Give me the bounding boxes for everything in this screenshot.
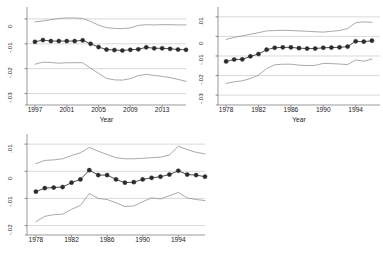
x-axis-tick-label: 1986	[92, 236, 122, 243]
data-point-marker	[256, 52, 260, 56]
y-axis-tick-label: 0	[197, 42, 204, 45]
y-axis-tick-label: -.02	[6, 224, 13, 235]
y-axis-tick-label: -.03	[197, 93, 204, 104]
y-axis-tick-label: -.03	[6, 92, 13, 103]
data-point-marker	[73, 39, 77, 43]
data-point-marker	[41, 38, 45, 42]
x-axis-tick-label: 2005	[84, 106, 114, 113]
data-point-marker	[152, 46, 156, 50]
data-point-marker	[232, 57, 236, 61]
data-point-marker	[132, 180, 136, 184]
data-point-marker	[150, 176, 154, 180]
data-point-marker	[185, 172, 189, 176]
figure-canvas: 0-.01-.02-.0319972001200520092013Year .0…	[0, 0, 383, 260]
data-point-marker	[104, 47, 108, 51]
data-point-marker	[362, 40, 366, 44]
x-axis-tick-label: 1982	[57, 236, 87, 243]
data-point-marker	[114, 177, 118, 181]
data-point-marker	[158, 175, 162, 179]
x-axis-tick-label: 1994	[341, 106, 371, 113]
chart-panel-top-left: 0-.01-.02-.0319972001200520092013Year	[0, 0, 190, 128]
y-axis-tick-label: -.01	[197, 54, 204, 65]
data-point-marker	[273, 46, 277, 50]
data-point-marker	[265, 48, 269, 52]
y-axis-tick-label: -.01	[6, 42, 13, 53]
x-axis-tick-label: 1982	[244, 106, 274, 113]
data-point-marker	[49, 39, 53, 43]
data-point-marker	[289, 45, 293, 49]
data-point-marker	[112, 48, 116, 52]
x-axis-tick-label: 1994	[163, 236, 193, 243]
data-point-marker	[248, 54, 252, 58]
estimate-line	[226, 41, 372, 62]
data-point-marker	[61, 185, 65, 189]
data-point-marker	[43, 186, 47, 190]
data-point-marker	[354, 39, 358, 43]
x-axis-title: Year	[27, 116, 186, 123]
x-axis-tick-label: 1978	[21, 236, 51, 243]
data-point-marker	[144, 45, 148, 49]
y-axis-tick-label: 0	[6, 177, 13, 180]
data-point-marker	[96, 173, 100, 177]
data-point-marker	[57, 39, 61, 43]
chart-panel-top-right: .010-.01-.02-.0319781982198619901994Year	[190, 0, 383, 128]
data-point-marker	[337, 45, 341, 49]
data-point-marker	[141, 177, 145, 181]
y-axis-tick-label: -.02	[197, 74, 204, 85]
x-axis-tick-label: 2009	[115, 106, 145, 113]
data-point-marker	[346, 44, 350, 48]
x-axis-tick-label: 1990	[308, 106, 338, 113]
y-axis-tick-label: -.01	[6, 197, 13, 208]
data-point-marker	[176, 47, 180, 51]
data-point-marker	[167, 172, 171, 176]
data-point-marker	[160, 46, 164, 50]
data-point-marker	[81, 38, 85, 42]
chart-panel-bottom-left: .010-.01-.0219781982198619901994	[0, 128, 215, 260]
data-point-marker	[240, 57, 244, 61]
ci-line	[35, 18, 186, 29]
y-axis-tick-label: 0	[6, 24, 13, 27]
data-point-marker	[370, 39, 374, 43]
ci-line	[36, 146, 205, 163]
x-axis-tick-label: 2013	[147, 106, 177, 113]
ci-line	[226, 59, 372, 83]
data-point-marker	[329, 45, 333, 49]
data-point-marker	[224, 59, 228, 63]
y-axis-tick-label: .01	[6, 144, 13, 153]
x-axis-tick-label: 1986	[276, 106, 306, 113]
data-point-marker	[313, 46, 317, 50]
data-point-marker	[105, 173, 109, 177]
data-point-marker	[65, 39, 69, 43]
data-point-marker	[184, 48, 188, 52]
data-point-marker	[33, 40, 37, 44]
data-point-marker	[128, 48, 132, 52]
x-axis-tick-label: 1990	[128, 236, 158, 243]
data-point-marker	[69, 181, 73, 185]
data-point-marker	[120, 48, 124, 52]
x-axis-tick-label: 2001	[52, 106, 82, 113]
data-point-marker	[89, 42, 93, 46]
data-point-marker	[123, 181, 127, 185]
data-point-marker	[136, 47, 140, 51]
y-axis-tick-label: -.02	[6, 67, 13, 78]
ci-line	[36, 192, 205, 221]
x-axis-tick-label: 1997	[20, 106, 50, 113]
data-point-marker	[168, 47, 172, 51]
data-point-marker	[281, 45, 285, 49]
y-axis-tick-label: .01	[197, 17, 204, 26]
data-point-marker	[203, 175, 207, 179]
data-point-marker	[305, 46, 309, 50]
data-point-marker	[321, 46, 325, 50]
data-point-marker	[176, 169, 180, 173]
x-axis-title: Year	[218, 116, 380, 123]
x-axis-tick-label: 1978	[211, 106, 241, 113]
data-point-marker	[78, 177, 82, 181]
data-point-marker	[297, 46, 301, 50]
data-point-marker	[52, 185, 56, 189]
data-point-marker	[96, 45, 100, 49]
data-point-marker	[34, 190, 38, 194]
data-point-marker	[194, 173, 198, 177]
data-point-marker	[87, 168, 91, 172]
ci-line	[35, 62, 186, 81]
